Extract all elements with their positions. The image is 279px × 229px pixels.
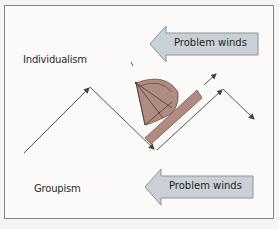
sailboat-icon	[0, 0, 279, 229]
